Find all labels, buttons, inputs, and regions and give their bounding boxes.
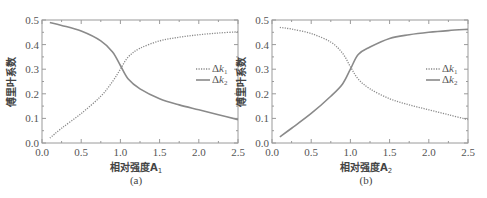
y-axis-title: 傅里叶系数 [235,56,247,108]
x-tick-label: 2.0 [422,146,436,158]
series-line-dk1 [280,27,468,119]
y-tick-label: 0.1 [255,112,269,124]
x-tick-label: 1.5 [153,146,167,158]
x-tick-label: 1.0 [114,146,128,158]
y-tick-label: 0.2 [255,88,269,100]
y-tick-label: 0.0 [255,137,269,149]
x-tick-label: 1.5 [383,146,397,158]
series-line-dk2 [280,29,468,137]
x-axis-title: 相对强度A1 [110,161,162,175]
y-tick-label: 0.3 [255,63,269,75]
panel-caption: (a) [130,174,143,187]
x-tick-label: 1.0 [344,146,358,158]
x-tick-label: 2.5 [231,146,245,158]
y-tick-label: 0.0 [25,137,39,149]
chart-panel-b: 0.00.51.01.52.02.50.00.10.20.30.40.5傅里叶系… [235,14,475,187]
y-axis-title: 傅里叶系数 [5,56,17,108]
y-tick-label: 0.1 [25,112,39,124]
panel-caption: (b) [360,174,373,187]
x-tick-label: 0.5 [304,146,318,158]
plot-frame [42,20,238,143]
x-tick-label: 2.5 [461,146,475,158]
y-tick-label: 0.3 [25,63,39,75]
x-tick-label: 2.0 [192,146,206,158]
plot-frame [272,20,468,143]
series-line-dk1 [50,32,238,138]
fourier-coefficient-charts: 0.00.51.01.52.02.50.00.10.20.30.40.5傅里叶系… [0,0,487,198]
y-tick-label: 0.4 [25,39,39,51]
y-tick-label: 0.5 [25,14,39,26]
y-tick-label: 0.5 [255,14,269,26]
x-axis-title: 相对强度A2 [340,161,392,175]
chart-panel-a: 0.00.51.01.52.02.50.00.10.20.30.40.5傅里叶系… [5,14,245,187]
y-tick-label: 0.4 [255,39,269,51]
series-line-dk2 [50,22,238,119]
x-tick-label: 0.5 [74,146,88,158]
y-tick-label: 0.2 [25,88,39,100]
